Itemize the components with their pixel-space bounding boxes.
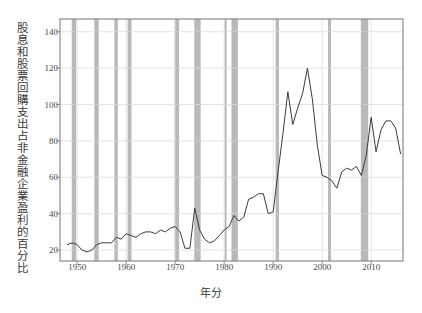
recession-band (194, 19, 200, 261)
recession-band (128, 19, 132, 261)
recession-band (114, 19, 117, 261)
line-chart-plot (0, 0, 422, 313)
recession-band (72, 19, 76, 261)
chart-figure: 股息和股票回購支出占非金融企業盈利的百分比 年分 204060801001201… (0, 0, 422, 313)
recession-band (94, 19, 98, 261)
recession-band (361, 19, 368, 261)
recession-band (225, 19, 227, 261)
recession-band (232, 19, 238, 261)
recession-band (276, 19, 279, 261)
recession-band (328, 19, 331, 261)
